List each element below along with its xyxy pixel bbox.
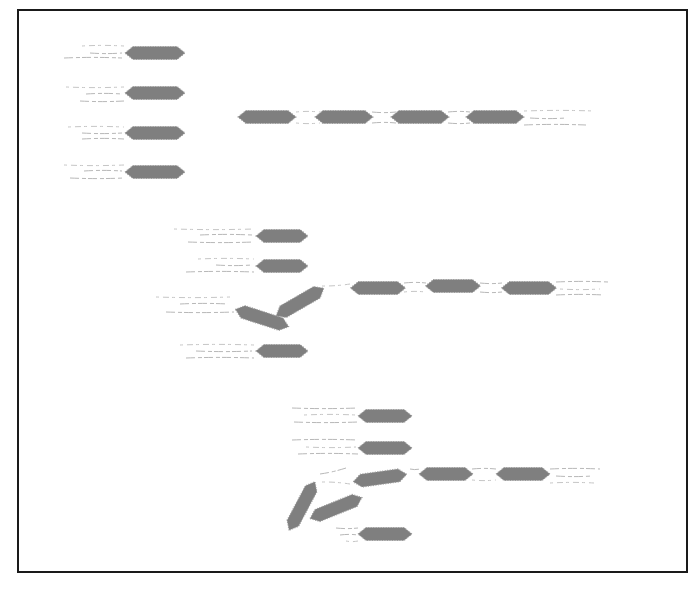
label-line (156, 297, 230, 298)
arrow-block (256, 345, 308, 358)
label-line (80, 101, 124, 102)
label-line (372, 112, 396, 113)
label-line (304, 414, 356, 415)
arrow-block (358, 442, 412, 455)
label-line (550, 468, 600, 469)
label-line (524, 110, 594, 111)
label-line (292, 439, 358, 440)
label-line (82, 138, 124, 139)
arrow-block (273, 283, 327, 322)
label-line (186, 271, 254, 272)
arrow-block (496, 468, 550, 481)
label-line (410, 469, 420, 470)
label-line (174, 229, 254, 230)
label-line (448, 123, 470, 124)
label-line (556, 294, 604, 295)
arrow-block (125, 127, 185, 140)
label-line (480, 292, 502, 293)
label-line (296, 111, 320, 112)
label-line (404, 291, 426, 292)
label-line (68, 126, 124, 127)
label-line (200, 234, 252, 235)
arrow-block (351, 282, 406, 295)
arrow-block (391, 111, 449, 124)
arrow-block (358, 528, 412, 541)
arrow-block (125, 87, 185, 100)
arrow-block (502, 282, 557, 295)
arrow-block (308, 491, 365, 524)
label-line (86, 93, 122, 94)
label-line (296, 123, 320, 124)
arrow-block (256, 260, 308, 273)
label-line (186, 357, 254, 358)
arrow-blocks (125, 47, 557, 541)
label-line (198, 258, 254, 259)
label-line (524, 124, 586, 125)
label-line (82, 45, 124, 46)
arrow-block (283, 479, 320, 534)
label-line (216, 265, 252, 266)
label-line (196, 351, 252, 352)
label-line (298, 453, 358, 454)
arrow-block (352, 468, 407, 488)
label-line (404, 282, 426, 283)
diagram-canvas (0, 0, 698, 590)
label-line (472, 480, 496, 481)
arrow-block (426, 280, 481, 293)
label-line (530, 118, 566, 119)
label-line (556, 476, 592, 477)
label-line (480, 283, 502, 284)
label-line (64, 165, 124, 166)
label-line (70, 178, 124, 179)
label-line (322, 482, 350, 484)
label-line (292, 408, 358, 409)
label-line (448, 111, 470, 112)
label-line (340, 534, 358, 535)
label-line (372, 122, 396, 123)
label-line (166, 312, 234, 313)
label-line (560, 289, 600, 290)
arrow-block (419, 468, 473, 481)
label-line (294, 422, 358, 423)
label-line (322, 284, 350, 286)
arrow-block (256, 230, 308, 243)
arrow-block (125, 47, 185, 60)
label-line (84, 170, 122, 171)
label-line (82, 133, 122, 134)
arrow-block (125, 166, 185, 179)
label-line (556, 281, 608, 282)
arrow-block (238, 111, 296, 124)
label-line (188, 242, 254, 243)
label-line (550, 482, 594, 483)
label-line (90, 53, 122, 54)
arrow-block (466, 111, 524, 124)
label-line (64, 57, 122, 58)
label-line (320, 468, 346, 474)
label-line (336, 528, 358, 529)
arrow-block (358, 410, 412, 423)
label-line (66, 87, 124, 88)
arrow-block (315, 111, 373, 124)
label-line (306, 447, 356, 448)
label-line (346, 541, 358, 542)
label-line (180, 303, 228, 304)
label-line (180, 344, 254, 345)
label-line (472, 468, 496, 469)
